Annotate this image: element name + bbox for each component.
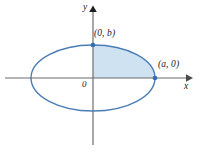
- ellipse-figure: (0, b) (a, 0) 0 x y: [0, 0, 200, 157]
- vertex-point-top-marker: [91, 43, 96, 48]
- origin-label: 0: [82, 80, 87, 89]
- vertex-label-right: (a, 0): [158, 60, 179, 70]
- vertex-label-top: (0, b): [94, 29, 115, 39]
- x-axis-label: x: [184, 82, 188, 92]
- ellipse-diagram-svg: [0, 0, 200, 157]
- vertex-point-right-marker: [153, 76, 158, 81]
- y-axis-label: y: [83, 3, 87, 13]
- y-axis-arrow-icon: [89, 6, 97, 13]
